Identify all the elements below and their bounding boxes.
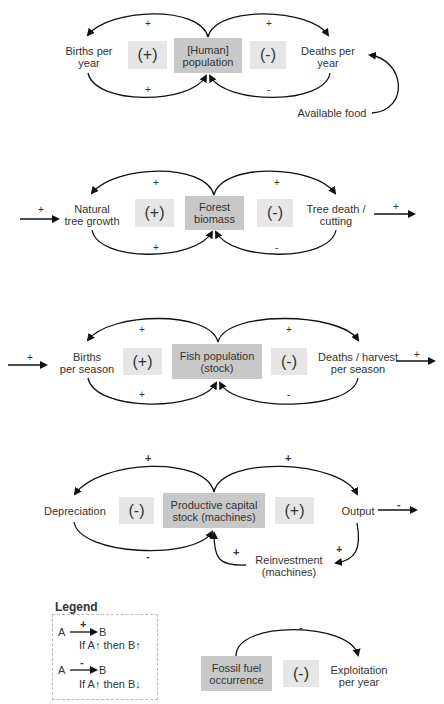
legend-to: B xyxy=(99,664,106,676)
legend-desc: If A↑ then B↑ xyxy=(79,639,141,651)
sign: + xyxy=(266,19,272,29)
sign: + xyxy=(274,178,280,188)
variable-depreciation: Depreciation xyxy=(44,505,104,517)
variable-tree-death-cutting: Tree death /cutting xyxy=(302,203,370,227)
sign: - xyxy=(146,551,150,561)
sign: + xyxy=(139,390,145,400)
variable-natural-tree-growth: Naturaltree growth xyxy=(62,203,122,227)
sign: + xyxy=(286,325,292,335)
variable-available-food: Available food xyxy=(294,107,370,119)
loop-label-reinforcing: (+) xyxy=(128,41,167,69)
sign: + xyxy=(145,85,151,95)
sign: + xyxy=(285,453,291,463)
variable-reinvestment: Reinvestment(machines) xyxy=(252,554,326,578)
legend-from: A xyxy=(58,664,65,676)
sign: - xyxy=(287,390,290,400)
sign: + xyxy=(145,453,151,463)
variable-output: Output xyxy=(340,505,376,517)
sign: + xyxy=(38,205,44,215)
sign: + xyxy=(145,19,151,29)
sign: + xyxy=(139,325,145,335)
loop-label-reinforcing: (+) xyxy=(135,199,174,227)
legend-from: A xyxy=(58,626,65,638)
sign: + xyxy=(233,547,239,557)
loop-label-reinforcing: (+) xyxy=(123,348,162,375)
stock-productive-capital: Productive capitalstock (machines) xyxy=(163,493,265,528)
sign: - xyxy=(267,85,270,95)
loop-label-reinforcing: (+) xyxy=(275,497,314,524)
loop-label-balancing: (-) xyxy=(257,199,293,227)
sign: + xyxy=(393,202,399,212)
sign: - xyxy=(275,243,278,253)
sign: + xyxy=(27,353,33,363)
stock-fish-population: Fish population(stock) xyxy=(172,344,262,379)
sign: + xyxy=(336,544,342,554)
stock-forest-biomass: Forestbiomass xyxy=(185,196,244,230)
loop-label-balancing: (-) xyxy=(119,497,154,524)
variable-deaths-harvest-per-season: Deaths / harvestper season xyxy=(318,351,398,375)
legend-desc: If A↑ then B↓ xyxy=(79,678,141,690)
stock-human-population: [Human]population xyxy=(174,38,242,73)
sign: + xyxy=(153,243,159,253)
legend-to: B xyxy=(99,626,106,638)
loop-label-balancing: (-) xyxy=(283,660,319,687)
variable-births-per-season: Birthsper season xyxy=(58,351,116,375)
loop-label-balancing: (-) xyxy=(250,41,286,69)
loop-label-balancing: (-) xyxy=(271,348,307,375)
sign: + xyxy=(414,350,420,360)
legend-title: Legend xyxy=(55,600,98,614)
variable-deaths-per-year: Deaths peryear xyxy=(300,45,356,69)
sign: + xyxy=(153,178,159,188)
legend-sign: + xyxy=(80,619,86,629)
legend-sign: - xyxy=(80,657,84,667)
sign: - xyxy=(299,622,303,632)
variable-exploitation-per-year: Exploitationper year xyxy=(328,664,390,688)
sign: - xyxy=(397,499,401,509)
variable-births-per-year: Births peryear xyxy=(62,45,116,69)
stock-fossil-fuel: Fossil fueloccurrence xyxy=(201,656,272,691)
